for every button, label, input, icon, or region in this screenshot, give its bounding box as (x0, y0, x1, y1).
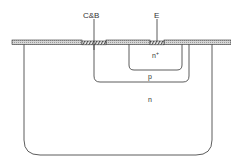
e-label: E (154, 11, 159, 20)
cb-label: C&B (83, 11, 99, 20)
n-region-boundary (24, 44, 212, 155)
cross-section-diagram: C&B E n+ p n (0, 0, 231, 161)
p-label: p (148, 73, 152, 81)
n-plus-label-sup: + (156, 50, 159, 56)
oxide-layer (12, 40, 231, 45)
n-label: n (148, 96, 152, 103)
e-contact (150, 41, 164, 45)
n-plus-label: n+ (152, 50, 159, 59)
p-region-boundary (94, 44, 189, 82)
